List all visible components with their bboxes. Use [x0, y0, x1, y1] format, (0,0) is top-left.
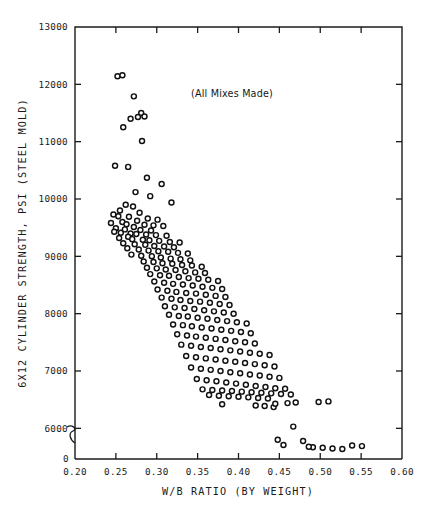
scatter-point	[123, 202, 128, 207]
scatter-point	[126, 214, 131, 219]
scatter-point	[169, 200, 174, 205]
scatter-point	[203, 335, 208, 340]
scatter-point	[192, 307, 197, 312]
scatter-point	[140, 237, 145, 242]
y-tick-label: 7000	[44, 365, 68, 376]
scatter-point	[220, 402, 225, 407]
scatter-point	[178, 297, 183, 302]
scatter-point	[257, 373, 262, 378]
scatter-point	[200, 284, 205, 289]
scatter-point	[267, 352, 272, 357]
scatter-point	[228, 348, 233, 353]
scatter-point	[188, 299, 193, 304]
scatter-point	[167, 312, 172, 317]
scatter-point	[173, 268, 178, 273]
scatter-point	[233, 339, 238, 344]
scatter-point	[149, 254, 154, 259]
scatter-point	[229, 389, 234, 394]
scatter-point	[118, 230, 123, 235]
scatter-point	[184, 291, 189, 296]
scatter-point	[256, 395, 261, 400]
scatter-point	[279, 391, 284, 396]
scatter-point	[147, 238, 152, 243]
chart-annotation: (All Mixes Made)	[191, 88, 273, 99]
y-tick-label: 9000	[44, 251, 68, 262]
scatter-point	[253, 403, 258, 408]
scatter-point	[170, 261, 175, 266]
scatter-point	[350, 443, 355, 448]
scatter-point	[203, 356, 208, 361]
scatter-point	[213, 293, 218, 298]
scatter-point	[269, 391, 274, 396]
scatter-point	[208, 346, 213, 351]
scatter-point	[176, 250, 181, 255]
scatter-point	[252, 341, 257, 346]
scatter-point	[179, 342, 184, 347]
scatter-point	[252, 362, 257, 367]
scatter-point	[263, 385, 268, 390]
scatter-point	[213, 336, 218, 341]
scatter-point	[204, 378, 209, 383]
scatter-point	[198, 366, 203, 371]
scatter-point	[133, 190, 138, 195]
scatter-point	[202, 308, 207, 313]
scatter-point	[238, 330, 243, 335]
x-axis-tick-labels: 0.200.250.300.350.400.450.500.550.60	[63, 466, 414, 477]
scatter-point	[128, 116, 133, 121]
scatter-point	[211, 309, 216, 314]
scatter-point	[265, 396, 270, 401]
scatter-point	[189, 343, 194, 348]
scatter-point	[273, 386, 278, 391]
scatter-point	[219, 327, 224, 332]
scatter-point	[161, 223, 166, 228]
scatter-point	[267, 374, 272, 379]
scatter-point	[247, 350, 252, 355]
y-axis-zero-label: 0	[63, 453, 69, 464]
scatter-point	[167, 273, 172, 278]
scatter-point	[148, 194, 153, 199]
scatter-point	[185, 251, 190, 256]
scatter-point	[135, 218, 140, 223]
scatter-point	[145, 216, 150, 221]
scatter-point	[168, 256, 173, 261]
scatter-point	[206, 277, 211, 282]
scatter-point	[149, 228, 154, 233]
scatter-point	[182, 305, 187, 310]
scatter-point	[216, 278, 221, 283]
scatter-point	[224, 380, 229, 385]
scatter-point	[234, 381, 239, 386]
scatter-point	[178, 257, 183, 262]
scatter-point	[233, 359, 238, 364]
scatter-point	[215, 317, 220, 322]
scatter-point	[176, 313, 181, 318]
scatter-point	[125, 246, 130, 251]
scatter-point	[330, 446, 335, 451]
scatter-point	[285, 401, 290, 406]
scatter-point	[291, 424, 296, 429]
scatter-point	[143, 242, 148, 247]
x-tick-label: 0.50	[308, 466, 332, 477]
scatter-point	[209, 326, 214, 331]
x-tick-label: 0.20	[63, 466, 87, 477]
scatter-point	[164, 233, 169, 238]
scatter-point	[189, 365, 194, 370]
scatter-point	[120, 73, 125, 78]
scatter-point	[193, 355, 198, 360]
scatter-point	[162, 280, 167, 285]
scatter-point	[157, 238, 162, 243]
scatter-point	[113, 163, 118, 168]
scatter-point	[159, 182, 164, 187]
scatter-point	[126, 164, 131, 169]
scatter-point	[189, 263, 194, 268]
scatter-point	[205, 316, 210, 321]
scatter-point	[155, 217, 160, 222]
scatter-point	[236, 394, 241, 399]
x-tick-label: 0.30	[145, 466, 169, 477]
scatter-point	[203, 292, 208, 297]
scatter-point	[172, 305, 177, 310]
scatter-point	[131, 204, 136, 209]
scatter-point	[220, 287, 225, 292]
scatter-point	[154, 266, 159, 271]
scatter-point	[175, 332, 180, 337]
scatter-point	[180, 323, 185, 328]
